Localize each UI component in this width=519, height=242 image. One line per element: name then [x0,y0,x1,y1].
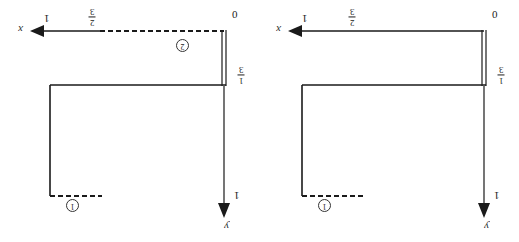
lower-break-denominator: 3 [238,65,245,74]
right-panel: x 1 2 3 0 1 3 1 1 y [260,0,519,242]
right-panel-graphic [260,0,519,242]
y-axis-arrow [478,86,490,218]
upper-break-numerator: 2 [349,18,356,27]
lower-break-numerator: 1 [238,76,245,85]
upper-break-fraction: 2 3 [349,6,356,27]
marker-two-circled: 2 [176,39,189,52]
x-axis-arrow [288,25,484,37]
upper-break-fraction: 2 3 [89,6,96,27]
y-axis-label: y [484,221,489,232]
lower-break-numerator: 1 [498,76,505,85]
upper-break-denominator: 3 [89,7,96,16]
lower-break-fraction: 1 3 [498,64,505,85]
x-axis-tick-label: 1 [302,13,308,24]
vertical-jump-double-line [222,30,226,86]
vertical-jump-double-line [482,30,486,86]
marker-one-label: 1 [318,199,331,212]
lower-break-denominator: 3 [498,65,505,74]
origin-label: 0 [492,9,498,20]
y-axis-arrow [218,86,230,218]
y-axis-tick-label: 1 [494,190,500,201]
marker-one-circled: 1 [318,199,331,212]
y-axis-tick-label: 1 [234,190,240,201]
origin-label: 0 [232,9,238,20]
y-axis-label: y [224,221,229,232]
x-axis-tick-label: 1 [44,13,50,24]
left-panel-graphic [0,0,259,242]
upper-break-denominator: 3 [349,7,356,16]
upper-break-numerator: 2 [89,18,96,27]
lower-break-fraction: 1 3 [238,64,245,85]
marker-one-label: 1 [66,199,79,212]
figure-canvas: x 1 2 3 0 1 3 2 1 1 y [0,0,519,242]
left-panel: x 1 2 3 0 1 3 2 1 1 y [0,0,259,242]
marker-one-circled: 1 [66,199,79,212]
marker-two-label: 2 [176,39,189,52]
x-axis-label: x [276,24,281,35]
x-axis-label: x [18,24,23,35]
